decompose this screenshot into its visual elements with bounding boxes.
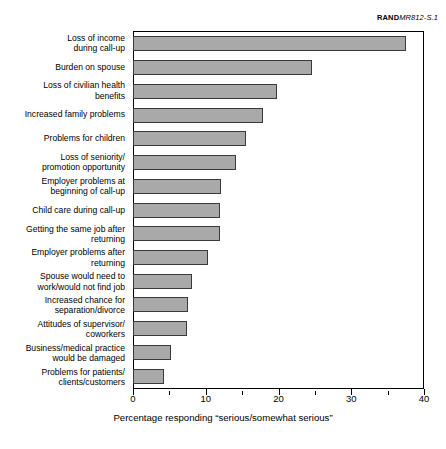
document-id-label: MR812-S.1 bbox=[399, 13, 438, 22]
bar-rows bbox=[134, 32, 423, 388]
category-label: Employer problems at beginning of call-u… bbox=[0, 174, 129, 198]
bar bbox=[133, 36, 406, 51]
bar bbox=[133, 60, 312, 75]
bar-row bbox=[134, 293, 423, 317]
bar-row bbox=[134, 222, 423, 246]
bar bbox=[133, 226, 220, 241]
x-tick-label: 10 bbox=[191, 393, 221, 404]
category-label: Increased chance for separation/divorce bbox=[0, 293, 129, 317]
category-label: Attitudes of supervisor/ coworkers bbox=[0, 317, 129, 341]
category-label: Burden on spouse bbox=[0, 55, 129, 79]
x-tick-label: 40 bbox=[409, 393, 439, 404]
category-label: Getting the same job after returning bbox=[0, 222, 129, 246]
bar bbox=[133, 321, 187, 336]
bar-row bbox=[134, 56, 423, 80]
bar bbox=[133, 345, 171, 360]
category-label: Child care during call-up bbox=[0, 198, 129, 222]
x-axis-tick-labels: 010203040 bbox=[0, 393, 446, 407]
category-label: Loss of income during call-up bbox=[0, 31, 129, 55]
category-label: Problems for patients/ clients/customers bbox=[0, 365, 129, 389]
x-axis-title: Percentage responding “serious/somewhat … bbox=[0, 412, 446, 423]
bar bbox=[133, 131, 246, 146]
source-credit: RANDMR812-S.1 bbox=[377, 13, 438, 22]
bar bbox=[133, 369, 164, 384]
figure: RANDMR812-S.1 Loss of income during call… bbox=[0, 0, 446, 449]
bar-row bbox=[134, 151, 423, 175]
x-tick-label: 20 bbox=[264, 393, 294, 404]
bar-row bbox=[134, 127, 423, 151]
bar-row bbox=[134, 103, 423, 127]
category-label: Loss of civilian health benefits bbox=[0, 79, 129, 103]
category-label: Employer problems after returning bbox=[0, 246, 129, 270]
bar bbox=[133, 155, 236, 170]
bar-row bbox=[134, 79, 423, 103]
bar bbox=[133, 297, 188, 312]
plot-area bbox=[133, 31, 424, 389]
bar-row bbox=[134, 198, 423, 222]
bar-row bbox=[134, 32, 423, 56]
bar-row bbox=[134, 364, 423, 388]
bar-row bbox=[134, 269, 423, 293]
bar bbox=[133, 274, 192, 289]
category-label: Loss of seniority/ promotion opportunity bbox=[0, 150, 129, 174]
publisher-label: RAND bbox=[377, 13, 399, 22]
bar bbox=[133, 203, 220, 218]
bar-row bbox=[134, 246, 423, 270]
bar bbox=[133, 250, 208, 265]
bar bbox=[133, 84, 277, 99]
bar bbox=[133, 108, 263, 123]
category-label: Spouse would need to work/would not find… bbox=[0, 270, 129, 294]
bar-row bbox=[134, 174, 423, 198]
x-tick-label: 0 bbox=[118, 393, 148, 404]
x-tick-label: 30 bbox=[336, 393, 366, 404]
category-labels: Loss of income during call-upBurden on s… bbox=[0, 31, 129, 389]
category-label: Problems for children bbox=[0, 126, 129, 150]
category-label: Increased family problems bbox=[0, 103, 129, 127]
category-label: Business/medical practice would be damag… bbox=[0, 341, 129, 365]
bar bbox=[133, 179, 221, 194]
bar-row bbox=[134, 341, 423, 365]
bar-row bbox=[134, 317, 423, 341]
